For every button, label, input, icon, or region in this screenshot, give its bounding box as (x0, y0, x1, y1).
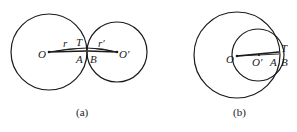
label-o-prime: O′ (252, 56, 263, 68)
label-t: T (281, 42, 288, 54)
label-o-prime: O′ (119, 48, 130, 60)
label-b: B (281, 56, 288, 68)
center-o-prime-dot (116, 51, 119, 54)
figure-a: O O′ r r′ T A B (a) (11, 14, 147, 119)
figure-b: O O′ T A B (b) (194, 12, 288, 119)
tangent-circles-diagram: O O′ r r′ T A B (a) O O′ T A B (b) (0, 0, 297, 132)
label-o: O (226, 53, 234, 65)
label-r: r (63, 37, 68, 49)
center-o-dot (236, 55, 239, 58)
segment-o-a (49, 51, 86, 52)
label-o: O (38, 48, 46, 60)
label-a: A (75, 53, 83, 65)
label-t: T (76, 36, 83, 48)
caption-a: (a) (76, 106, 89, 119)
center-o-dot (48, 51, 51, 54)
label-a: A (269, 56, 277, 68)
segment-b-o-prime (88, 51, 117, 52)
caption-b: (b) (233, 106, 246, 119)
label-b: B (90, 53, 97, 65)
label-r-prime: r′ (98, 37, 105, 49)
